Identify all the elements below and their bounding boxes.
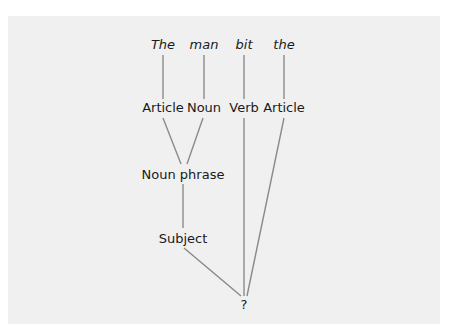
word-the: The [151, 37, 175, 52]
word-man: man [190, 37, 219, 52]
category-article: Article [142, 100, 184, 115]
phrase-noun-phrase: Noun phrase [142, 167, 225, 182]
category-article-2: Article [263, 100, 305, 115]
word-bit: bit [236, 37, 254, 52]
function-subject: Subject [159, 231, 208, 246]
edge-subj-to-root [184, 248, 241, 296]
category-verb: Verb [229, 100, 258, 115]
parse-tree-diagram: The man bit the Article Noun Verb Articl… [0, 0, 453, 336]
word-the-2: the [273, 37, 294, 52]
edge-c4-to-root [247, 118, 284, 296]
edge-c1-to-np [163, 118, 181, 164]
edge-c2-to-np [187, 118, 203, 164]
root-question-mark: ? [241, 297, 248, 312]
category-noun: Noun [187, 100, 221, 115]
